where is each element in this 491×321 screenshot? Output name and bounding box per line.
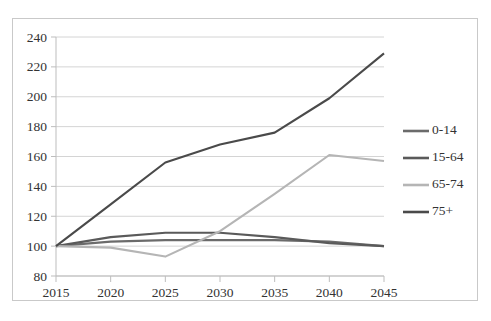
y-axis-tick-label: 160 bbox=[27, 149, 48, 164]
x-axis-tick-label: 2025 bbox=[152, 285, 179, 300]
x-axis-tick-label: 2035 bbox=[261, 285, 288, 300]
y-axis-tick-label: 80 bbox=[34, 269, 48, 284]
x-axis-tick-label: 2045 bbox=[371, 285, 398, 300]
legend-label-0-14[interactable]: 0-14 bbox=[432, 122, 457, 137]
series-line-75- bbox=[56, 53, 384, 246]
x-axis-tick-label: 2040 bbox=[316, 285, 343, 300]
y-axis-tick-label: 140 bbox=[27, 179, 48, 194]
y-axis-tick-label: 180 bbox=[27, 119, 48, 134]
y-axis-tick-label: 240 bbox=[27, 30, 48, 45]
legend-label-15-64[interactable]: 15-64 bbox=[432, 149, 464, 164]
y-axis-tick-label: 100 bbox=[27, 239, 48, 254]
y-axis-tick-label: 200 bbox=[27, 89, 48, 104]
y-axis-tick-label: 220 bbox=[27, 59, 48, 74]
x-axis-tick-label: 2015 bbox=[43, 285, 70, 300]
legend-label-75-[interactable]: 75+ bbox=[432, 203, 453, 218]
chart-container: 8010012014016018020022024020152020202520… bbox=[12, 18, 478, 301]
x-axis-tick-label: 2030 bbox=[207, 285, 234, 300]
y-axis-tick-label: 120 bbox=[27, 209, 48, 224]
legend-label-65-74[interactable]: 65-74 bbox=[432, 176, 464, 191]
line-chart: 8010012014016018020022024020152020202520… bbox=[13, 19, 477, 300]
x-axis-tick-label: 2020 bbox=[97, 285, 124, 300]
